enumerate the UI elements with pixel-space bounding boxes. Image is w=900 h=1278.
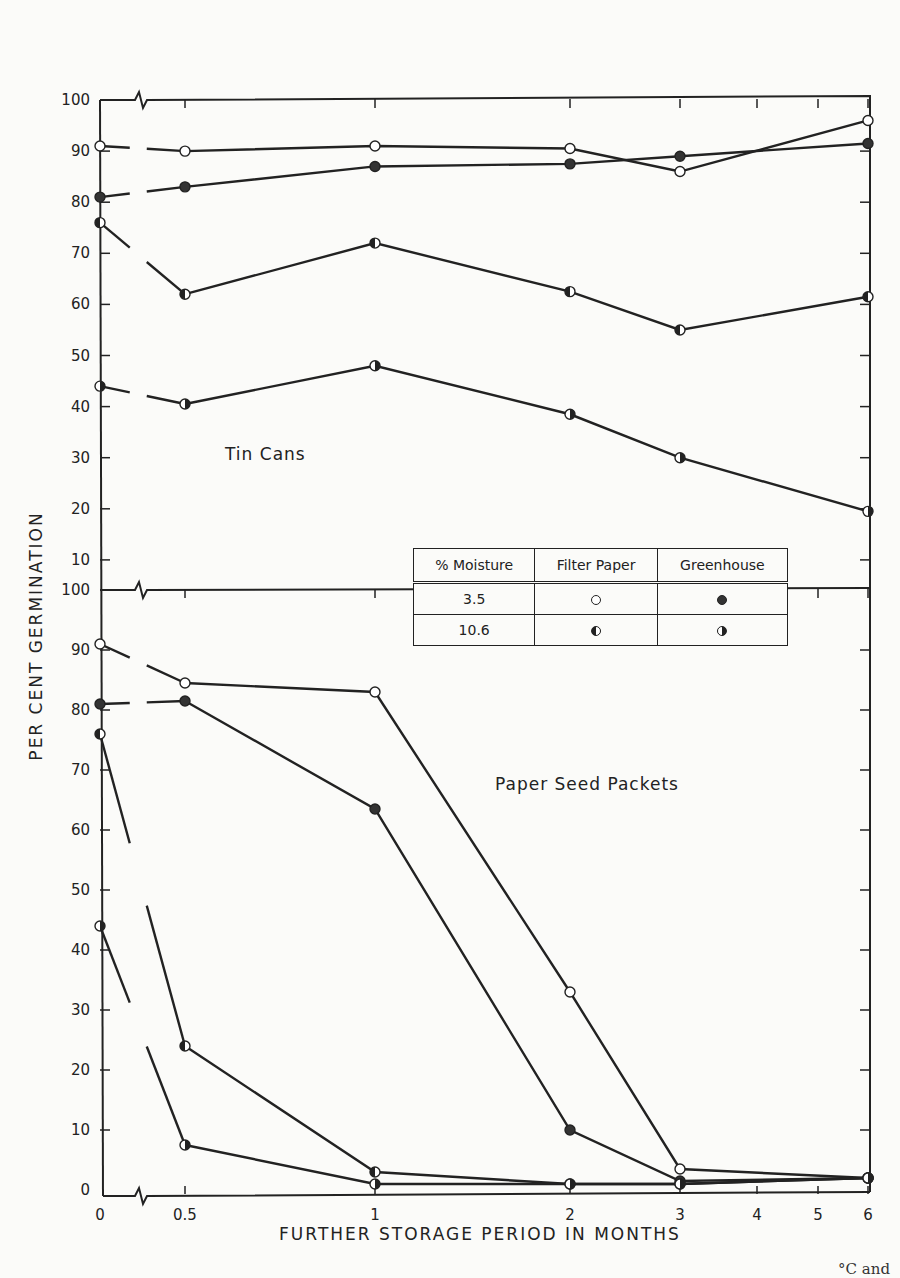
left-half-circle-marker — [863, 292, 873, 302]
series-line — [185, 143, 868, 186]
series-3-5-filter-paper — [95, 115, 873, 176]
marker-circle — [565, 159, 575, 169]
series-segment-broken — [100, 926, 130, 1003]
marker-circle — [95, 141, 105, 151]
y-tick-label: 0 — [80, 1181, 90, 1199]
series-line — [185, 683, 868, 1178]
series-segment-broken — [100, 734, 130, 843]
panel-tin-cans — [95, 115, 873, 516]
y-tick-label: 90 — [71, 641, 90, 659]
series-10-6-greenhouse — [95, 361, 873, 517]
right-half-circle-marker-icon — [717, 626, 727, 636]
marker-circle — [565, 987, 575, 997]
open-circle-marker-icon — [591, 595, 601, 605]
marker-circle — [180, 182, 190, 192]
marker-circle — [675, 151, 685, 161]
y-tick-label: 20 — [71, 500, 90, 518]
series-segment-broken — [147, 396, 185, 404]
marker-circle — [95, 192, 105, 202]
filled-circle-marker — [95, 192, 105, 202]
right-half-circle-marker — [95, 381, 105, 391]
left-half-circle-marker — [565, 287, 575, 297]
open-circle-marker — [370, 141, 380, 151]
filled-circle-marker — [180, 182, 190, 192]
y-tick-label: 40 — [71, 398, 90, 416]
legend-cell — [657, 583, 787, 615]
marker-circle — [675, 167, 685, 177]
open-circle-marker — [675, 167, 685, 177]
right-half-circle-marker — [565, 1179, 575, 1189]
open-circle-marker — [95, 141, 105, 151]
x-tick-label: 6 — [863, 1206, 873, 1224]
right-half-circle-marker — [180, 399, 190, 409]
marker-circle — [863, 115, 873, 125]
left-half-circle-marker — [95, 218, 105, 228]
x-tick-label: 3 — [675, 1206, 685, 1224]
panel-paper-seed-packets — [95, 639, 873, 1189]
filled-circle-marker-icon — [717, 595, 727, 605]
filled-circle-marker — [565, 1125, 575, 1135]
open-circle-marker — [180, 146, 190, 156]
right-half-circle-marker — [863, 1173, 873, 1183]
marker-circle — [180, 146, 190, 156]
filled-circle-marker — [370, 161, 380, 171]
x-tick-label: 0.5 — [173, 1206, 197, 1224]
legend-cell — [535, 615, 657, 646]
right-half-circle-marker — [180, 1140, 190, 1150]
y-tick-label: 60 — [71, 295, 90, 313]
series-segment-broken — [147, 262, 185, 294]
series-10-6-filter-paper — [95, 729, 873, 1189]
marker-circle — [863, 138, 873, 148]
x-tick-label: 2 — [565, 1206, 575, 1224]
series-3-5-greenhouse — [95, 696, 873, 1186]
open-circle-marker — [95, 639, 105, 649]
series-line — [185, 243, 868, 330]
legend-row: 10.6 — [414, 615, 788, 646]
y-tick-label: 80 — [71, 701, 90, 719]
series-line — [185, 1145, 868, 1184]
left-half-circle-marker-icon — [591, 626, 601, 636]
series-segment-broken — [147, 701, 185, 702]
right-half-circle-marker — [565, 409, 575, 419]
legend-row: 3.5 — [414, 583, 788, 615]
series-3-5-filter-paper — [95, 639, 873, 1183]
right-half-circle-marker — [863, 506, 873, 516]
series-segment-broken — [147, 1046, 185, 1145]
x-tick-label: 1 — [370, 1206, 380, 1224]
marker-circle — [95, 699, 105, 709]
series-10-6-greenhouse — [95, 921, 873, 1189]
y-tick-label: 100 — [61, 91, 90, 109]
series-line — [185, 366, 868, 512]
y-tick-label: 50 — [71, 347, 90, 365]
series-line — [185, 701, 868, 1181]
marker-circle — [565, 144, 575, 154]
left-half-circle-marker — [180, 289, 190, 299]
marker-circle — [370, 161, 380, 171]
marker-circle — [180, 678, 190, 688]
series-segment-broken — [147, 665, 185, 683]
series-segment-broken — [147, 149, 185, 151]
legend-moisture-value: 10.6 — [414, 615, 535, 646]
x-axis-line — [103, 1188, 870, 1204]
y-tick-label: 60 — [71, 821, 90, 839]
open-circle-marker — [565, 987, 575, 997]
filled-circle-marker — [180, 696, 190, 706]
y-tick-label: 70 — [71, 244, 90, 262]
right-half-circle-marker — [370, 1179, 380, 1189]
marker-circle — [180, 696, 190, 706]
series-segment-broken — [147, 187, 185, 192]
x-tick-label: 4 — [752, 1206, 762, 1224]
legend-header-row: % Moisture Filter Paper Greenhouse — [414, 549, 788, 583]
marker-circle — [370, 687, 380, 697]
open-circle-marker — [565, 144, 575, 154]
y-tick-label: 50 — [71, 881, 90, 899]
legend-header-moisture: % Moisture — [414, 549, 535, 583]
left-half-circle-marker — [675, 325, 685, 335]
y-tick-label: 100 — [61, 581, 90, 599]
filled-circle-marker — [370, 804, 380, 814]
y-tick-label: 80 — [71, 193, 90, 211]
y-tick-label: 40 — [71, 941, 90, 959]
legend-cell — [535, 583, 657, 615]
marker-circle — [95, 639, 105, 649]
x-tick-label: 0 — [95, 1206, 105, 1224]
